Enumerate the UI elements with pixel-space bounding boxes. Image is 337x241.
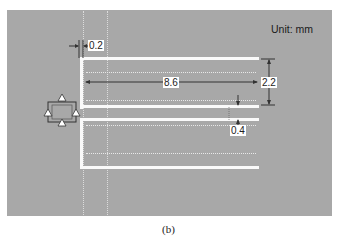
dimension-label-finger-length: 8.6 (163, 77, 179, 88)
unit-label: Unit: mm (271, 23, 313, 35)
figure-caption: (b) (0, 223, 337, 235)
dimension-label-line-width: 0.2 (88, 40, 104, 51)
dimension-annotations (0, 0, 337, 241)
port-symbol-icon (44, 94, 80, 126)
dimension-label-finger-gap: 0.4 (230, 125, 246, 136)
dimension-label-finger-width: 2.2 (261, 77, 277, 88)
